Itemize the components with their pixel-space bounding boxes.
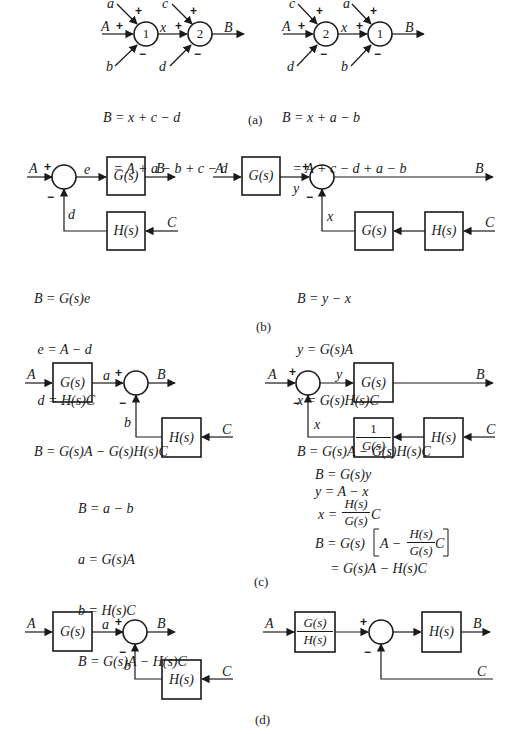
equation-line: C (371, 506, 380, 523)
label-b: b (124, 416, 131, 430)
minus-sign: − (374, 48, 381, 60)
equations-a-right: B = x + a − b = A + c − d + a − b (282, 75, 407, 211)
label-C-input: C (222, 665, 231, 679)
label-y: y (336, 368, 342, 382)
equation-line: B = G(s)A − G(s)H(s)C (34, 443, 168, 460)
equation-line: = G(s)A − H(s)C (330, 560, 427, 577)
label-d: d (68, 208, 75, 222)
label-c-input: c (289, 0, 295, 11)
label-A-input: A (282, 20, 291, 34)
summing-junction-1-label: 1 (373, 27, 387, 40)
block-H-feedback: H(s) (425, 212, 463, 250)
label-y: y (293, 182, 299, 196)
label-B-output: B (476, 368, 485, 382)
summing-junction-1-label: 1 (139, 27, 153, 40)
plus-sign: + (135, 5, 142, 17)
fraction-denominator: H(s) (303, 633, 326, 647)
label-b: b (124, 659, 131, 673)
label-C-input: C (222, 423, 231, 437)
equation-line: A − (380, 535, 401, 552)
fraction-denominator: G(s) (362, 439, 385, 453)
label-e: e (84, 163, 90, 177)
plus-sign: + (289, 366, 296, 378)
block-inverse-G-feedback: 1 G(s) (356, 422, 391, 453)
label-C-input: C (477, 665, 486, 679)
block-G-forward: G(s) (53, 612, 92, 651)
label-a: a (103, 369, 110, 383)
caption-c: (c) (254, 575, 268, 588)
equation-line: = A + c − d + a − b (282, 160, 407, 177)
equation-line: B = G(s) (315, 535, 365, 552)
plus-sign: + (190, 5, 197, 17)
label-b-input: b (106, 60, 113, 74)
plus-sign: + (115, 616, 122, 628)
label-A-input: A (265, 617, 274, 631)
block-G-feedback: G(s) (355, 212, 393, 250)
equation-line: B = a − b (78, 500, 187, 517)
minus-sign: − (364, 646, 371, 658)
summing-junction-2-label: 2 (193, 27, 207, 40)
minus-sign: − (119, 397, 126, 409)
fraction-numerator: 1 (370, 422, 377, 436)
label-A-input: A (29, 162, 38, 176)
plus-sign: + (44, 161, 51, 173)
equation-line: B = y − x (297, 290, 431, 307)
label-d-input: d (287, 60, 294, 74)
label-B-output: B (405, 21, 414, 35)
minus-sign: − (119, 646, 126, 658)
minus-sign: − (194, 48, 201, 60)
label-B-output: B (157, 368, 166, 382)
minus-sign: − (47, 191, 54, 203)
label-A-input: A (101, 20, 110, 34)
block-G-over-H-prefilter: G(s) H(s) (297, 616, 333, 647)
equation-fraction: H(s) G(s) (342, 497, 370, 528)
label-B-output: B (475, 162, 484, 176)
equation-line: C (435, 535, 444, 552)
label-a-input: a (343, 0, 350, 11)
label-A-input: A (27, 368, 36, 382)
equation-line: e = A − d (34, 341, 168, 358)
block-H-feedback: H(s) (424, 418, 463, 457)
summing-junction-2-label: 2 (319, 27, 333, 40)
label-c-input: c (162, 0, 168, 11)
block-H-feedback: H(s) (162, 660, 201, 699)
label-a: a (102, 618, 109, 632)
equation-fraction: H(s) G(s) (407, 527, 435, 558)
plus-sign: + (175, 20, 182, 32)
minus-sign: − (139, 48, 146, 60)
label-B-output: B (224, 21, 233, 35)
plus-sign: + (360, 616, 367, 628)
caption-b: (b) (256, 320, 271, 333)
plus-sign: + (298, 20, 305, 32)
label-A-input: A (215, 162, 224, 176)
label-A-input: A (268, 368, 277, 382)
label-x: x (341, 21, 347, 35)
minus-sign: − (306, 191, 313, 203)
label-x: x (327, 210, 333, 224)
plus-sign: + (115, 367, 122, 379)
block-G-forward: G(s) (53, 363, 92, 402)
block-H-feedback: H(s) (107, 212, 145, 250)
equation-line: y = G(s)A (297, 341, 431, 358)
caption-a: (a) (248, 113, 262, 126)
fraction-numerator: H(s) (409, 527, 432, 541)
label-B-output: B (156, 162, 165, 176)
plus-sign: + (116, 20, 123, 32)
equation-line: B = x + c − d (103, 109, 228, 126)
label-a-input: a (107, 0, 114, 11)
block-H-forward: H(s) (422, 612, 461, 652)
fraction-numerator: H(s) (344, 497, 367, 511)
label-B-output: B (473, 617, 482, 631)
block-G-forward: G(s) (354, 363, 393, 402)
fraction-denominator: G(s) (344, 514, 367, 528)
equation-line: a = G(s)A (78, 551, 187, 568)
plus-sign: + (370, 5, 377, 17)
minus-sign: − (320, 48, 327, 60)
equation-line: b = H(s)C (78, 602, 187, 619)
label-C-input: C (485, 216, 494, 230)
label-x: x (160, 21, 166, 35)
fraction-denominator: G(s) (409, 544, 432, 558)
plus-sign: + (356, 20, 363, 32)
label-A-input: A (27, 617, 36, 631)
equation-line: B = G(s)e (34, 290, 168, 307)
